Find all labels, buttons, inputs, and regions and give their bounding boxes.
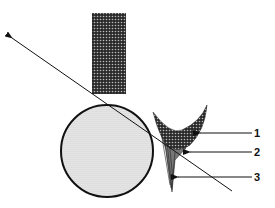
- diagram-canvas: [0, 0, 275, 208]
- roll-circle: [61, 105, 153, 197]
- dark-rectangle: [92, 13, 126, 94]
- label-3: 3: [254, 172, 260, 183]
- label-2: 2: [254, 147, 260, 158]
- crescent-shape: [153, 105, 207, 149]
- label-1: 1: [254, 128, 260, 139]
